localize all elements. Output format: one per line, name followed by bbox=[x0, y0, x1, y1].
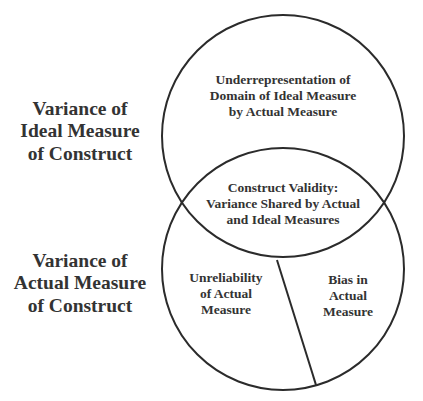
label-line: of Actual bbox=[172, 286, 280, 302]
label-line: Construct Validity: bbox=[183, 180, 383, 196]
label-line: of Construct bbox=[10, 295, 150, 317]
label-line: Underrepresentation of bbox=[193, 72, 373, 88]
label-line: Bias in bbox=[310, 272, 386, 288]
underrepresentation-region-label: Underrepresentation of Domain of Ideal M… bbox=[193, 72, 373, 121]
label-line: Measure bbox=[172, 302, 280, 318]
actual-measure-label: Variance of Actual Measure of Construct bbox=[10, 250, 150, 317]
label-line: Domain of Ideal Measure bbox=[193, 88, 373, 104]
label-line: Ideal Measure bbox=[10, 120, 150, 142]
ideal-measure-label: Variance of Ideal Measure of Construct bbox=[10, 98, 150, 165]
label-line: Actual bbox=[310, 288, 386, 304]
label-line: Variance of bbox=[10, 250, 150, 272]
label-line: and Ideal Measures bbox=[183, 212, 383, 228]
bias-region-label: Bias in Actual Measure bbox=[310, 272, 386, 321]
label-line: Actual Measure bbox=[10, 272, 150, 294]
construct-validity-region-label: Construct Validity: Variance Shared by A… bbox=[183, 180, 383, 229]
label-line: Measure bbox=[310, 304, 386, 320]
label-line: of Construct bbox=[10, 143, 150, 165]
label-line: Variance of bbox=[10, 98, 150, 120]
label-line: by Actual Measure bbox=[193, 104, 373, 120]
label-line: Unreliability bbox=[172, 270, 280, 286]
unreliability-region-label: Unreliability of Actual Measure bbox=[172, 270, 280, 319]
label-line: Variance Shared by Actual bbox=[183, 196, 383, 212]
